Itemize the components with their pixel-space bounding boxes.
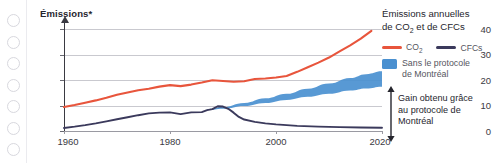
emissions-chart: Émissions* 40 30 20 10 0 1960 1980 2000 … bbox=[26, 0, 491, 163]
legend-entries-lines: CO2 CFCs bbox=[382, 42, 491, 54]
spiral-binding bbox=[0, 0, 26, 163]
legend-title: Émissions annuelles de CO2 et de CFCs bbox=[382, 8, 490, 37]
double-arrow-icon bbox=[384, 86, 398, 142]
legend-title-line2a: de CO bbox=[382, 21, 410, 32]
line-cfcs bbox=[64, 106, 382, 128]
legend-entry-band: Sans le protocole de Montréal bbox=[382, 58, 491, 80]
binding-hole bbox=[7, 57, 20, 70]
legend-label-band-line1: Sans le protocole bbox=[402, 58, 470, 68]
legend-title-line1: Émissions annuelles bbox=[382, 8, 469, 19]
chart-legend: Émissions annuelles de CO2 et de CFCs CO… bbox=[382, 8, 491, 80]
gain-line3: Montréal bbox=[398, 116, 433, 126]
legend-swatch-co2 bbox=[382, 46, 402, 49]
binding-hole bbox=[7, 79, 20, 92]
legend-label-co2: CO2 bbox=[406, 42, 422, 54]
gain-line2: au protocole de bbox=[398, 105, 461, 115]
gain-annotation-text: Gain obtenu grâce au protocole de Montré… bbox=[398, 93, 492, 128]
legend-title-line2b: et de CFCs bbox=[414, 21, 465, 32]
legend-label-band: Sans le protocole de Montréal bbox=[402, 58, 470, 80]
gain-line1: Gain obtenu grâce bbox=[398, 93, 473, 103]
legend-label-band-line2: de Montréal bbox=[402, 69, 448, 79]
line-co2 bbox=[64, 31, 371, 107]
band-sans-protocole bbox=[207, 71, 382, 110]
binding-hole bbox=[7, 122, 20, 135]
legend-label-cfcs: CFCs bbox=[460, 43, 482, 53]
binding-hole bbox=[7, 36, 20, 49]
legend-swatch-cfcs bbox=[436, 46, 456, 49]
legend-swatch-band bbox=[382, 59, 397, 69]
binding-hole bbox=[7, 143, 20, 156]
binding-hole bbox=[7, 14, 20, 27]
binding-hole bbox=[7, 100, 20, 113]
